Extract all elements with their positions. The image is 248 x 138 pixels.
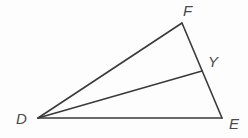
geometry-figure: F Y D E — [0, 0, 248, 138]
segments-group — [38, 23, 222, 118]
segment-df — [38, 23, 182, 118]
segment-dy — [38, 71, 202, 118]
vertex-label-y: Y — [208, 54, 218, 69]
vertex-label-f: F — [183, 3, 192, 18]
vertex-label-d: D — [16, 111, 27, 126]
vertex-label-e: E — [229, 116, 239, 131]
